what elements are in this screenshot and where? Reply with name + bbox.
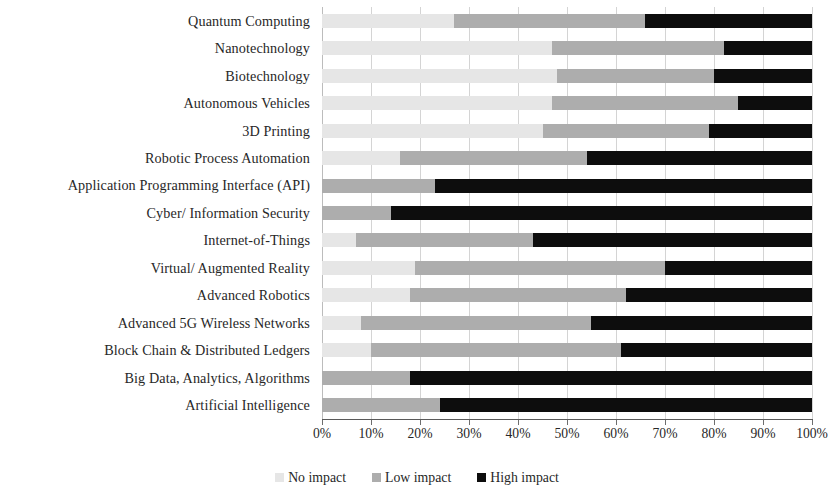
bar-segment-no-impact (322, 41, 552, 55)
bar-segment-high-impact (587, 151, 812, 165)
bar-segment-low-impact (400, 151, 586, 165)
category-label: Advanced 5G Wireless Networks (0, 309, 316, 336)
category-label: Internet-of-Things (0, 227, 316, 254)
bar-segment-high-impact (621, 343, 812, 357)
x-axis-tick-label: 90% (751, 427, 776, 441)
bar-segment-low-impact (322, 179, 435, 193)
bar-segment-high-impact (724, 41, 812, 55)
stacked-bar (322, 69, 812, 83)
x-axis-tick-label: 60% (604, 427, 629, 441)
bar-segment-low-impact (361, 316, 591, 330)
x-axis-tick (567, 420, 568, 425)
x-axis-tick (322, 420, 323, 425)
x-axis-tick (812, 420, 813, 425)
bar-segment-low-impact (410, 288, 626, 302)
bar-segment-low-impact (552, 41, 724, 55)
bar-row (322, 62, 812, 89)
category-label: Application Programming Interface (API) (0, 172, 316, 199)
bar-segment-low-impact (322, 206, 391, 220)
stacked-bar-chart: Quantum ComputingNanotechnologyBiotechno… (0, 0, 834, 495)
bar-row (322, 392, 812, 419)
bar-segment-low-impact (356, 233, 532, 247)
bar-row (322, 7, 812, 34)
stacked-bar (322, 398, 812, 412)
category-axis-labels: Quantum ComputingNanotechnologyBiotechno… (0, 7, 316, 419)
legend-item[interactable]: High impact (477, 471, 559, 485)
bar-segment-no-impact (322, 151, 400, 165)
bar-row (322, 337, 812, 364)
bar-segment-high-impact (645, 14, 812, 28)
bar-row (322, 172, 812, 199)
bar-segment-high-impact (665, 261, 812, 275)
x-axis-tick (714, 420, 715, 425)
bar-segment-high-impact (533, 233, 812, 247)
bar-segment-low-impact (552, 96, 738, 110)
x-axis-tick-label: 50% (555, 427, 580, 441)
bar-row (322, 144, 812, 171)
bar-segment-high-impact (591, 316, 812, 330)
category-label: Advanced Robotics (0, 282, 316, 309)
bar-segment-no-impact (322, 124, 543, 138)
bar-segment-no-impact (322, 69, 557, 83)
bar-row (322, 254, 812, 281)
x-axis-tick (371, 420, 372, 425)
bar-segment-no-impact (322, 343, 371, 357)
bar-segment-low-impact (454, 14, 645, 28)
x-axis-tick-label: 30% (457, 427, 482, 441)
x-axis-tick-labels: 0%10%20%30%40%50%60%70%80%90%100% (0, 427, 834, 449)
legend-label: No impact (288, 471, 346, 485)
bar-row (322, 364, 812, 391)
legend-item[interactable]: No impact (275, 471, 346, 485)
bar-series-container (322, 7, 812, 419)
bar-segment-low-impact (543, 124, 710, 138)
stacked-bar (322, 124, 812, 138)
category-label: Artificial Intelligence (0, 392, 316, 419)
x-axis-ticks (322, 420, 812, 425)
category-label: Robotic Process Automation (0, 144, 316, 171)
bar-segment-no-impact (322, 288, 410, 302)
bar-row (322, 199, 812, 226)
bar-segment-low-impact (557, 69, 714, 83)
stacked-bar (322, 233, 812, 247)
stacked-bar (322, 151, 812, 165)
bar-segment-no-impact (322, 14, 454, 28)
stacked-bar (322, 343, 812, 357)
bar-row (322, 309, 812, 336)
category-label: Nanotechnology (0, 34, 316, 61)
legend-label: Low impact (385, 471, 451, 485)
plot-area (322, 7, 812, 419)
category-label: Autonomous Vehicles (0, 89, 316, 116)
bar-segment-high-impact (626, 288, 812, 302)
bar-segment-high-impact (714, 69, 812, 83)
x-axis-tick (420, 420, 421, 425)
x-axis-tick (665, 420, 666, 425)
x-axis-tick-label: 20% (408, 427, 433, 441)
category-label: Cyber/ Information Security (0, 199, 316, 226)
bar-row (322, 89, 812, 116)
stacked-bar (322, 14, 812, 28)
stacked-bar (322, 371, 812, 385)
legend-swatch-icon (275, 473, 284, 482)
bar-segment-high-impact (435, 179, 812, 193)
bar-segment-no-impact (322, 96, 552, 110)
category-label: Biotechnology (0, 62, 316, 89)
x-axis-tick-label: 80% (702, 427, 727, 441)
x-axis-tick (469, 420, 470, 425)
bar-row (322, 117, 812, 144)
bar-segment-no-impact (322, 316, 361, 330)
x-axis-tick-label: 0% (313, 427, 331, 441)
stacked-bar (322, 41, 812, 55)
bar-segment-low-impact (415, 261, 665, 275)
chart-legend: No impactLow impactHigh impact (0, 466, 834, 490)
bar-row (322, 282, 812, 309)
legend-item[interactable]: Low impact (372, 471, 451, 485)
stacked-bar (322, 288, 812, 302)
bar-row (322, 34, 812, 61)
bar-segment-high-impact (410, 371, 812, 385)
x-axis-tick-label: 40% (506, 427, 531, 441)
plot-wrapper: Quantum ComputingNanotechnologyBiotechno… (0, 0, 834, 430)
category-label: 3D Printing (0, 117, 316, 144)
bar-segment-high-impact (391, 206, 812, 220)
stacked-bar (322, 96, 812, 110)
stacked-bar (322, 179, 812, 193)
